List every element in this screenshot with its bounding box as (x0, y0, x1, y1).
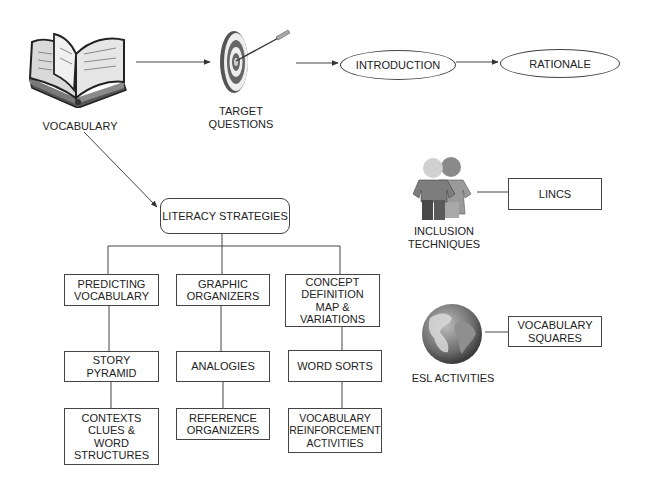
literacy-strategies-node: LITERACY STRATEGIES (160, 198, 290, 234)
context-clues-node: CONTEXTS CLUES & WORD STRUCTURES (64, 408, 159, 465)
word-sorts-node: WORD SORTS (288, 350, 382, 382)
vocabulary-reinforcement-node: VOCABULARY REINFORCEMENT ACTIVITIES (288, 408, 382, 453)
two-people-icon (413, 154, 477, 220)
reference-organizers-node: REFERENCE ORGANIZERS (176, 408, 270, 440)
globe-icon (420, 302, 484, 366)
story-pyramid-node: STORY PYRAMID (64, 351, 159, 382)
target-dartboard-icon (212, 28, 294, 96)
analogies-node: ANALOGIES (176, 351, 270, 382)
target-questions-label: TARGET QUESTIONS (206, 105, 276, 130)
concept-definition-map-node: CONCEPT DEFINITION MAP & VARIATIONS (285, 274, 380, 327)
esl-activities-label: ESL ACTIVITIES (408, 372, 498, 385)
lincs-node: LINCS (508, 178, 602, 210)
rationale-node: RATIONALE (500, 49, 620, 78)
predicting-vocabulary-node: PREDICTING VOCABULARY (64, 274, 159, 306)
open-book-icon (26, 28, 134, 108)
vocabulary-squares-node: VOCABULARY SQUARES (508, 316, 602, 347)
vocabulary-label: VOCABULARY (40, 120, 120, 133)
introduction-node: INTRODUCTION (340, 50, 456, 80)
inclusion-techniques-label: INCLUSION TECHNIQUES (408, 225, 480, 250)
graphic-organizers-node: GRAPHIC ORGANIZERS (176, 274, 270, 306)
